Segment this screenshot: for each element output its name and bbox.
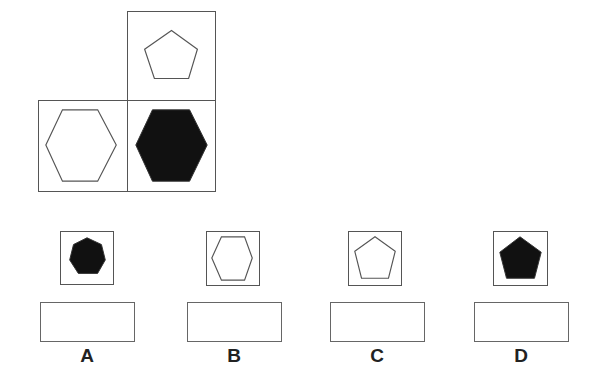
answer-box-b[interactable] xyxy=(187,302,282,342)
option-label-b: B xyxy=(214,345,254,367)
grid-cell-bottom-right xyxy=(127,100,216,192)
option-c-figure[interactable] xyxy=(348,231,402,286)
hexagon-outline-icon xyxy=(207,232,259,285)
heptagon-solid-icon xyxy=(61,232,113,284)
grid-cell-bottom-left xyxy=(38,100,128,192)
pentagon-solid-icon xyxy=(494,232,547,285)
option-label-c: C xyxy=(357,345,397,367)
hexagon-outline-icon xyxy=(39,101,127,191)
option-d-figure[interactable] xyxy=(493,231,548,286)
option-label-a: A xyxy=(67,345,107,367)
grid-cell-top-right xyxy=(127,11,216,101)
answer-box-c[interactable] xyxy=(330,302,425,342)
option-a-figure[interactable] xyxy=(60,231,114,285)
pentagon-outline-icon xyxy=(128,12,215,100)
answer-box-a[interactable] xyxy=(40,302,135,342)
hexagon-solid-icon xyxy=(128,101,215,191)
answer-box-d[interactable] xyxy=(474,302,569,342)
pentagon-outline-icon xyxy=(349,232,401,285)
option-b-figure[interactable] xyxy=(206,231,260,286)
option-label-d: D xyxy=(501,345,541,367)
